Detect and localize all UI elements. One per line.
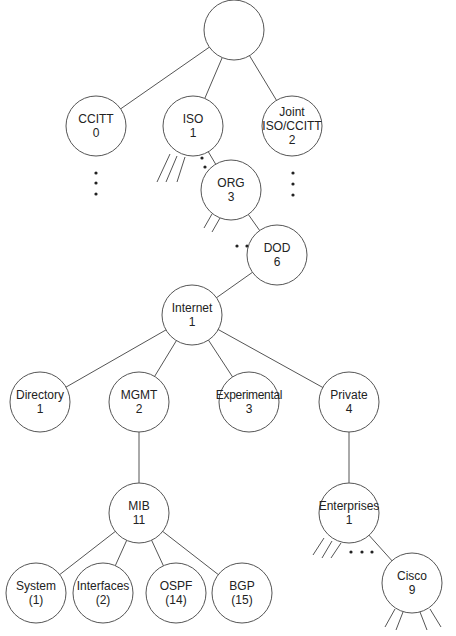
ellipsis-dot xyxy=(349,550,352,553)
node-label-line: Internet xyxy=(152,301,232,315)
node-label-line: 0 xyxy=(56,126,136,140)
node-label-ccitt: CCITT0 xyxy=(56,112,136,140)
node-label-line: (15) xyxy=(202,593,282,607)
ellipsis-dot xyxy=(291,171,294,174)
node-label-mib: MIB11 xyxy=(99,499,179,527)
node-label-line: ORG xyxy=(191,176,271,190)
node-label-line: ISO/CCITT xyxy=(252,119,332,133)
node-label-line: ISO xyxy=(153,112,233,126)
ellipsis-dot xyxy=(291,182,294,185)
node-label-line: Enterprises xyxy=(309,499,389,513)
node-root xyxy=(204,0,264,60)
node-label-enterprises: Enterprises1 xyxy=(309,499,389,527)
node-label-line: 9 xyxy=(372,583,452,597)
node-label-line: 2 xyxy=(99,402,179,416)
node-label-line: Private xyxy=(309,388,389,402)
node-label-line: DOD xyxy=(237,241,317,255)
node-label-line: 2 xyxy=(252,133,332,147)
node-label-line: 3 xyxy=(191,190,271,204)
branch-stub xyxy=(331,543,341,558)
node-label-line: Cisco xyxy=(372,569,452,583)
ellipsis-dot xyxy=(370,550,373,553)
node-label-line: 11 xyxy=(99,513,179,527)
node-label-line: Interfaces xyxy=(63,579,143,593)
branch-stub xyxy=(313,538,324,555)
node-label-line: 3 xyxy=(209,402,289,416)
ellipsis-dot xyxy=(360,550,363,553)
node-label-line: Experimental xyxy=(209,388,289,402)
node-label-line: (2) xyxy=(63,593,143,607)
branch-stub xyxy=(420,612,427,630)
ellipsis-dot xyxy=(94,171,97,174)
node-label-bgp: BGP(15) xyxy=(202,579,282,607)
node-label-private: Private4 xyxy=(309,388,389,416)
ellipsis-dot xyxy=(94,181,97,184)
branch-stub xyxy=(177,157,185,182)
node-label-mgmt: MGMT2 xyxy=(99,388,179,416)
node-label-line: 6 xyxy=(237,255,317,269)
node-label-line: 1 xyxy=(152,315,232,329)
node-label-cisco: Cisco9 xyxy=(372,569,452,597)
branch-stub xyxy=(396,612,403,630)
node-label-line: 1 xyxy=(0,402,80,416)
node-label-interfaces: Interfaces(2) xyxy=(63,579,143,607)
node-label-line: CCITT xyxy=(56,112,136,126)
ellipsis-dot xyxy=(203,165,206,168)
branch-stub xyxy=(204,214,212,228)
node-label-joint: JointISO/CCITT2 xyxy=(252,105,332,147)
node-label-directory: Directory1 xyxy=(0,388,80,416)
node-label-line: 1 xyxy=(153,126,233,140)
node-label-iso: ISO1 xyxy=(153,112,233,140)
branch-stub xyxy=(212,218,220,232)
branch-stub xyxy=(385,609,395,627)
branch-stub xyxy=(430,609,441,627)
node-label-line: Directory xyxy=(0,388,80,402)
node-label-line: Joint xyxy=(252,105,332,119)
node-label-line: 1 xyxy=(309,513,389,527)
node-label-internet: Internet1 xyxy=(152,301,232,329)
node-label-org: ORG3 xyxy=(191,176,271,204)
branch-stub xyxy=(322,541,332,558)
node-label-line: BGP xyxy=(202,579,282,593)
node-label-line: MGMT xyxy=(99,388,179,402)
node-label-line: 4 xyxy=(309,402,389,416)
node-label-dod: DOD6 xyxy=(237,241,317,269)
node-label-experimental: Experimental3 xyxy=(209,388,289,416)
node-label-line: MIB xyxy=(99,499,179,513)
ellipsis-dot xyxy=(200,156,203,159)
ellipsis-dot xyxy=(94,192,97,195)
ellipsis-dot xyxy=(291,193,294,196)
